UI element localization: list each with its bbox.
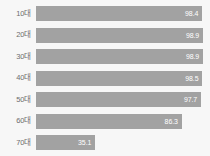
category-label: 70대: [0, 139, 36, 147]
bar-value-label: 98.4: [185, 10, 198, 17]
chart-row: 60대 86.3: [0, 114, 205, 129]
bar: 98.9: [36, 49, 203, 64]
chart-row: 10대 98.4: [0, 6, 205, 21]
category-label: 30대: [0, 53, 36, 61]
bar: 35.1: [36, 135, 95, 150]
chart-row: 40대 98.5: [0, 71, 205, 86]
category-label: 20대: [0, 31, 36, 39]
bar-value-label: 98.5: [185, 75, 198, 82]
bar-value-label: 97.7: [184, 96, 197, 103]
bar-track: 98.9: [36, 49, 205, 64]
bar-track: 86.3: [36, 114, 205, 129]
chart-row: 70대 35.1: [0, 135, 205, 150]
category-label: 60대: [0, 117, 36, 125]
bar-track: 98.9: [36, 28, 205, 43]
bar-track: 98.5: [36, 71, 205, 86]
bar: 86.3: [36, 114, 182, 129]
horizontal-bar-chart: 10대 98.4 20대 98.9 30대 98.9 40대 98.5: [0, 0, 210, 156]
bar-track: 35.1: [36, 135, 205, 150]
bar: 98.4: [36, 6, 202, 21]
bar-value-label: 86.3: [165, 118, 178, 125]
bar: 98.9: [36, 28, 203, 43]
bar-track: 98.4: [36, 6, 205, 21]
chart-row: 30대 98.9: [0, 49, 205, 64]
bar-value-label: 98.9: [186, 53, 199, 60]
category-label: 50대: [0, 96, 36, 104]
bar: 98.5: [36, 71, 202, 86]
category-label: 10대: [0, 10, 36, 18]
bar-track: 97.7: [36, 92, 205, 107]
bar-value-label: 35.1: [78, 139, 91, 146]
chart-row: 50대 97.7: [0, 92, 205, 107]
chart-row: 20대 98.9: [0, 28, 205, 43]
bar-value-label: 98.9: [186, 32, 199, 39]
bar: 97.7: [36, 92, 201, 107]
category-label: 40대: [0, 74, 36, 82]
